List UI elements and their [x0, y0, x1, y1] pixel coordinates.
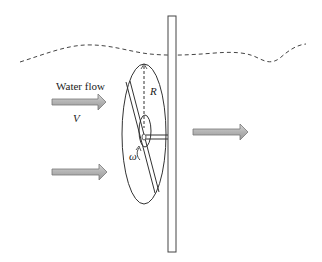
support-pole	[168, 16, 176, 252]
inflow-arrow-top	[52, 94, 106, 110]
radius-label: R	[149, 85, 157, 97]
turbine-diagram: Water flow V R ω	[0, 0, 322, 262]
omega-label: ω	[129, 150, 137, 162]
inflow-arrow-bottom	[52, 164, 107, 180]
water-surface-line	[20, 44, 306, 62]
water-flow-label: Water flow	[56, 80, 105, 92]
rotation-arrow	[137, 148, 140, 160]
outflow-arrow	[193, 124, 248, 140]
hub-center	[142, 134, 146, 140]
velocity-label: V	[73, 112, 81, 124]
hub	[139, 115, 151, 147]
